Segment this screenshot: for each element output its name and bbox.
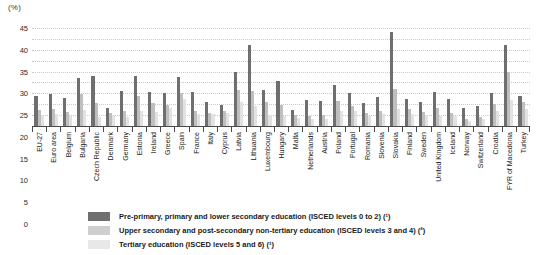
x-axis-category-label: Italy [206,132,213,145]
legend-item[interactable]: Tertiary education (ISCED levels 5 and 6… [88,238,528,251]
x-axis-category-label: Estonia [135,132,142,155]
x-axis-category: FYR of Macedonia [502,132,516,200]
bar-group [331,28,345,126]
y-axis-tick-label: 0 [24,221,28,229]
x-axis-category: Netherlands [302,132,316,200]
plot-area: 051015202530354045 [32,28,530,126]
legend-item[interactable]: Upper secondary and post-secondary non-t… [88,224,528,237]
bar-group [117,28,131,126]
x-axis-category: Poland [331,132,345,200]
x-axis-category: Portugal [345,132,359,200]
bar-group [75,28,89,126]
bar-group [260,28,274,126]
bar-group [246,28,260,126]
bar-group [160,28,174,126]
bar [268,115,271,126]
bar-group [189,28,203,126]
bar-group [174,28,188,126]
bar-group [388,28,402,126]
y-axis-tick-label: 30 [20,91,28,99]
bar [55,114,58,126]
bar [297,118,300,126]
x-axis-category-label: Bulgaria [78,132,85,158]
x-axis-category-label: Norway [463,132,470,156]
bar-group [32,28,46,126]
bar [169,108,172,127]
bar [69,116,72,126]
legend-color-swatch [88,226,110,235]
legend-color-swatch [88,212,110,221]
x-axis-category: Sweden [416,132,430,200]
x-axis-category-label: Euro area [50,132,57,163]
bar [240,102,243,126]
bar [112,115,115,126]
x-axis-category-label: Turkey [520,132,527,153]
bar [397,109,400,126]
bar [439,116,442,126]
x-axis-category: Finland [402,132,416,200]
chart-legend: Pre-primary, primary and lower secondary… [88,210,528,252]
x-axis-category-label: FYR of Macedonia [505,132,512,190]
bar [354,111,357,126]
bar-group [217,28,231,126]
x-axis-category-label: EU-27 [36,132,43,152]
x-axis-category-label: United Kingdom [434,132,441,182]
legend-item-label: Tertiary education (ISCED levels 5 and 6… [119,241,274,249]
x-axis-category-labels: EU-27Euro areaBelgiumBulgariaCzech Repub… [32,132,530,200]
x-axis-category: Italy [203,132,217,200]
bar [525,109,528,126]
x-axis-category-label: Germany [121,132,128,161]
y-axis-tick-label: 10 [20,178,28,186]
bar [340,111,343,126]
bar-group [132,28,146,126]
bar [254,106,257,126]
x-axis-category-label: France [192,132,199,154]
y-axis-tick-label: 20 [20,134,28,142]
x-axis-category: France [189,132,203,200]
bar [211,114,214,126]
bar-group [516,28,530,126]
y-axis-tick-label: 25 [20,112,28,120]
legend-item[interactable]: Pre-primary, primary and lower secondary… [88,210,528,223]
x-axis-category-label: Lithuania [249,132,256,160]
bar [197,114,200,126]
x-axis-category-label: Poland [335,132,342,154]
bar [98,117,101,126]
x-axis-category: Latvia [231,132,245,200]
bar [411,114,414,126]
x-axis-category: Bulgaria [75,132,89,200]
x-axis-category: United Kingdom [431,132,445,200]
y-axis-tick-label: 45 [20,25,28,33]
x-axis-category-label: Ireland [149,132,156,153]
legend-item-label: Pre-primary, primary and lower secondary… [119,213,391,221]
bar [453,116,456,126]
x-axis-category-label: Slovakia [391,132,398,158]
x-axis-category: Germany [117,132,131,200]
x-axis-category: Slovenia [374,132,388,200]
bar [382,114,385,126]
x-axis-category-label: Cyprus [221,132,228,154]
bar [126,117,129,126]
x-axis-category: Ireland [146,132,160,200]
y-axis-tick-label: 35 [20,69,28,77]
bar-group [473,28,487,126]
y-axis-unit-label: (%) [8,3,21,12]
y-axis-tick-label: 40 [20,47,28,55]
y-axis-tick-label: 5 [24,199,28,207]
x-axis-category: Croatia [488,132,502,200]
x-axis-category-label: Latvia [235,132,242,151]
x-axis-category: Turkey [516,132,530,200]
x-axis-category-label: Finland [406,132,413,155]
x-axis-category: Switzerland [473,132,487,200]
bar-group [502,28,516,126]
bar [425,115,428,126]
x-axis-category-label: Slovenia [377,132,384,159]
x-axis-category-label: Spain [178,132,185,150]
bars-group [32,28,530,126]
bar-group [203,28,217,126]
bar-group [402,28,416,126]
bar-group [302,28,316,126]
bar [140,111,143,126]
x-axis-category: Cyprus [217,132,231,200]
y-axis-tick-label: 15 [20,156,28,164]
